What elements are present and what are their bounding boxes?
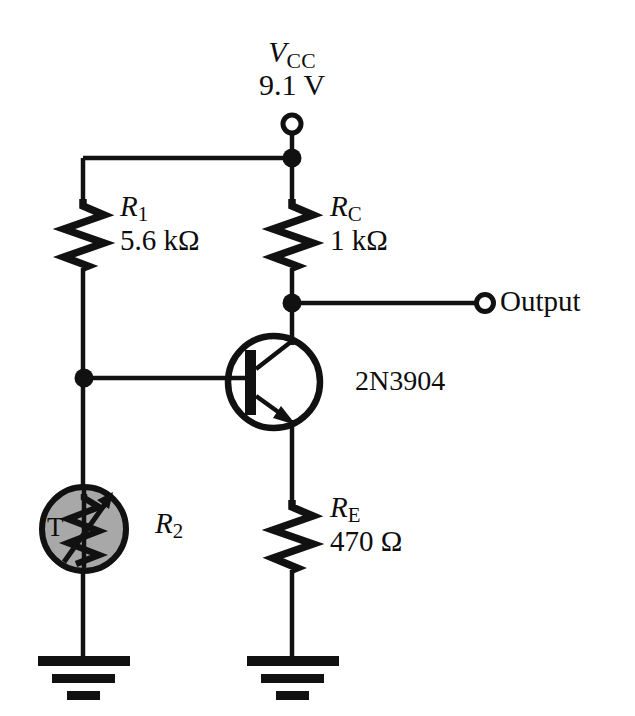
re-designator-subscript: E: [348, 503, 361, 527]
r2-label: R2: [155, 508, 183, 538]
supply-name: V: [268, 35, 286, 68]
ground-bar-1: [247, 656, 339, 666]
ground-bar-2: [52, 674, 115, 683]
resistor-r1-symbol: [64, 199, 104, 268]
transistor-base-bar: [245, 350, 256, 415]
re-label: RE470 Ω: [330, 492, 402, 557]
rc-label: RC1 kΩ: [330, 191, 388, 256]
supply-voltage: 9.1 V: [259, 69, 325, 101]
r1-value: 5.6 kΩ: [120, 225, 200, 255]
junction-dot-collector: [283, 294, 302, 313]
output-label: Output: [500, 286, 581, 316]
ground-symbol-right: [247, 656, 339, 700]
supply-label: VCC9.1 V: [259, 36, 325, 100]
junction-dot-base: [75, 369, 94, 388]
r2-designator: R: [155, 507, 173, 539]
junction-dot-supply: [283, 149, 302, 168]
supply-name-subscript: CC: [287, 49, 316, 73]
r2-designator-subscript: 2: [173, 519, 184, 543]
ground-bar-3: [67, 691, 100, 700]
ground-bar-1: [38, 656, 130, 666]
ground-symbol-left: [38, 656, 130, 700]
ground-bar-3: [276, 691, 309, 700]
resistor-rc-symbol: [273, 199, 313, 268]
thermistor-marking-label: T: [47, 512, 64, 543]
circuit-diagram: VCC9.1 V R15.6 kΩ RC1 kΩ Output 2N3904 R…: [0, 0, 635, 716]
re-value: 470 Ω: [330, 526, 402, 556]
r1-designator-subscript: 1: [138, 202, 149, 226]
r1-label: R15.6 kΩ: [120, 191, 200, 256]
transistor-symbol: [228, 336, 320, 428]
r1-designator: R: [120, 190, 138, 222]
re-designator: R: [330, 491, 348, 523]
output-terminal-circle[interactable]: [477, 295, 494, 312]
transistor-collector-lead: [256, 341, 292, 369]
transistor-part-number-label: 2N3904: [355, 366, 445, 395]
transistor-envelope: [228, 336, 320, 428]
circuit-schematic-svg: [0, 0, 635, 716]
rc-designator-subscript: C: [348, 202, 362, 226]
rc-designator: R: [330, 190, 348, 222]
rc-value: 1 kΩ: [330, 225, 388, 255]
ground-bar-2: [261, 674, 324, 683]
resistor-re-symbol: [273, 500, 313, 570]
vcc-terminal-circle[interactable]: [283, 115, 301, 133]
